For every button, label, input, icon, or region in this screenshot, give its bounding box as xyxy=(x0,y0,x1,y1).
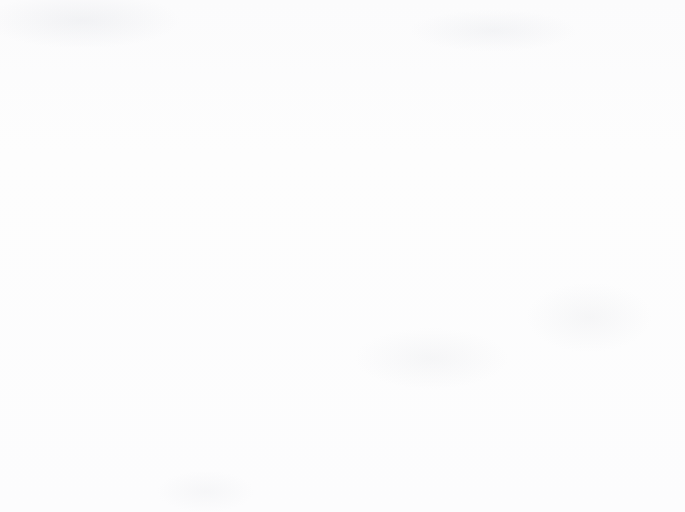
x-axis-tick-label: 250 xyxy=(545,434,573,454)
bar-value-label: 96.5 xyxy=(305,254,338,274)
bar-value-label: 236.6 xyxy=(545,72,588,92)
bar-value-label: 61.5 xyxy=(245,345,278,365)
x-axis-tick xyxy=(387,421,389,430)
bar-category-label: United States xyxy=(0,208,122,226)
x-axis-tick xyxy=(301,421,303,430)
bar-category-label: Argentina xyxy=(0,390,122,408)
bar-value-label: 176.9 xyxy=(443,117,486,137)
chart-figure: Country Japan236.6Greece176.9Italy128.7U… xyxy=(0,0,685,512)
bar xyxy=(130,109,434,146)
x-axis-tick-label: 150 xyxy=(373,434,401,454)
bar-category-label: France xyxy=(0,254,122,272)
x-axis-tick-label: 100 xyxy=(287,434,315,454)
x-axis-tick-label: 200 xyxy=(459,434,487,454)
bar-category-label: Egypt xyxy=(0,299,122,317)
x-axis-tick-label: 50 xyxy=(206,434,225,454)
x-axis-title: Government gross debt as a percent of GD… xyxy=(0,466,685,485)
chart-plot-area: Country Japan236.6Greece176.9Italy128.7U… xyxy=(0,0,685,512)
bar-category-label: Israel xyxy=(0,345,122,363)
bar-category-label: Italy xyxy=(0,163,122,181)
bar xyxy=(130,200,315,237)
bar-value-label: 128.7 xyxy=(360,163,403,183)
x-axis-tick-label: 300 xyxy=(631,434,659,454)
x-axis-tick xyxy=(129,421,131,430)
bar xyxy=(130,63,536,100)
x-axis-tick xyxy=(644,421,646,430)
bar-category-label: Greece xyxy=(0,117,122,135)
bar-value-label: 58.2 xyxy=(239,390,272,410)
bar xyxy=(130,154,351,191)
bar-value-label: 87.1 xyxy=(289,299,322,319)
bar-category-label: Japan xyxy=(0,72,122,90)
x-axis-tick xyxy=(472,421,474,430)
bar xyxy=(130,382,230,419)
bar xyxy=(130,336,236,373)
bar-value-label: 107.8 xyxy=(324,208,367,228)
x-axis-tick xyxy=(558,421,560,430)
x-axis-tick-label: 0 xyxy=(125,434,134,454)
bar xyxy=(130,245,296,282)
category-axis-header: Country xyxy=(94,26,158,45)
bar xyxy=(130,291,280,328)
x-axis-tick xyxy=(215,421,217,430)
